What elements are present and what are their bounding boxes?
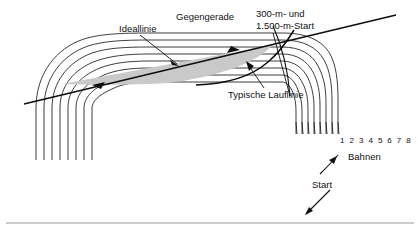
- label-typische-lauflinie: Typische Lauflinie: [228, 90, 304, 101]
- lane-tick-group: [296, 122, 339, 134]
- label-bahnen: Bahnen: [348, 152, 381, 163]
- lane-path-7: [84, 75, 302, 160]
- label-start: Start: [312, 180, 332, 191]
- label-gegengerade: Gegengerade: [176, 12, 234, 23]
- difference-area: [62, 45, 273, 85]
- label-ideallinie: Ideallinie: [119, 24, 157, 35]
- ideal-line: [24, 15, 396, 104]
- track-graphic: [0, 0, 420, 231]
- label-start-300m-line1: 300-m- und: [256, 9, 305, 20]
- leader-typische-arrowhead: [246, 61, 254, 71]
- leader-ideallinie: [140, 35, 177, 64]
- track-diagram: Ideallinie Gegengerade 300-m- und 1.500-…: [0, 0, 420, 231]
- label-start-1500m-line2: 1.500-m-Start: [256, 21, 314, 32]
- lane-numbers: 1 2 3 4 5 6 7 8: [340, 136, 412, 145]
